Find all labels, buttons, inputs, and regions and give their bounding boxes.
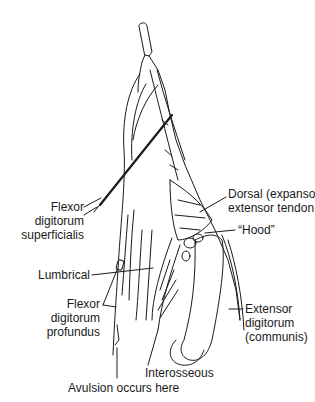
metacarpal [181, 235, 223, 360]
leader-fdp-1 [103, 270, 117, 305]
leader-fds [84, 198, 101, 207]
finger-dorsal-outline [149, 56, 240, 320]
fingertip [139, 23, 152, 56]
label-lumbrical: Lumbrical [28, 268, 90, 282]
leader-dorsal [200, 197, 226, 212]
label-dorsal-extensor-tendon: Dorsal (expansor) extensor tendon [228, 187, 315, 215]
label-flexor-digitorum-profundus: Flexor digitorum profundus [40, 297, 100, 339]
label-avulsion-site: Avulsion occurs here [68, 381, 208, 395]
label-extensor-digitorum: Extensor digitorum (communis) [245, 302, 315, 344]
label-hood: “Hood” [238, 223, 298, 237]
label-interosseous: Interosseous [145, 366, 235, 380]
leader-fdp-2 [103, 305, 116, 307]
leader-interosseous [148, 330, 158, 365]
diagram-canvas: Flexor digitorum superficialis Dorsal (e… [0, 0, 315, 402]
label-flexor-digitorum-superficialis: Flexor digitorum superficialis [18, 200, 84, 242]
leader-hood [205, 230, 235, 233]
